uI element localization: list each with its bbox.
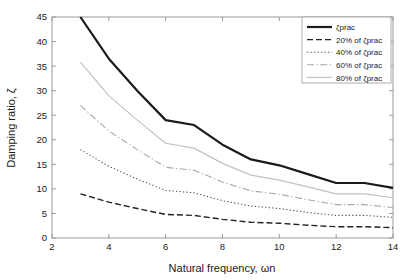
y-tick-label: 25 — [36, 110, 47, 121]
y-tick-label: 0 — [42, 232, 47, 243]
chart-figure: 051015202530354045 2468101214 Natural fr… — [0, 0, 417, 280]
legend-label-2: 40% of ζprac — [336, 48, 382, 57]
x-tick-label: 12 — [331, 241, 342, 252]
y-tick-label: 40 — [36, 36, 47, 47]
y-tick-label: 35 — [36, 61, 47, 72]
x-tick-label: 8 — [220, 241, 225, 252]
legend-label-1: 20% of ζprac — [336, 36, 382, 45]
x-axis-title: Natural frequency, ωn — [169, 262, 276, 274]
y-tick-label: 30 — [36, 85, 47, 96]
y-axis-title: Damping ratio, ζ — [5, 88, 17, 168]
x-tick-label: 6 — [163, 241, 168, 252]
x-tick-label: 14 — [388, 241, 399, 252]
y-tick-label: 20 — [36, 134, 47, 145]
legend-label-4: 80% of ζprac — [336, 74, 382, 83]
x-tick-label: 4 — [106, 241, 111, 252]
y-tick-label: 45 — [36, 11, 47, 22]
damping-ratio-line-chart: 051015202530354045 2468101214 Natural fr… — [0, 0, 417, 280]
y-tick-label: 5 — [42, 208, 47, 219]
y-tick-label: 15 — [36, 159, 47, 170]
y-tick-label: 10 — [36, 183, 47, 194]
legend-label-3: 60% of ζprac — [336, 61, 382, 70]
x-tick-label: 2 — [49, 241, 54, 252]
legend-label-0: ζprac — [336, 23, 355, 32]
x-tick-label: 10 — [274, 241, 285, 252]
